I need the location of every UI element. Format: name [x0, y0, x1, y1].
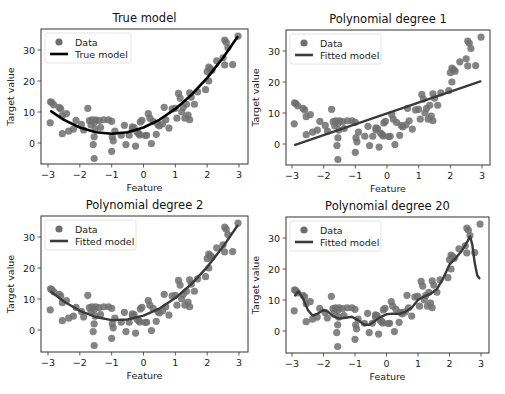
data-point: [177, 94, 184, 101]
data-point: [91, 342, 98, 349]
data-point: [372, 124, 379, 131]
data-point: [448, 78, 455, 85]
data-point: [303, 131, 310, 138]
data-point: [417, 116, 424, 123]
data-point: [328, 106, 335, 113]
x-tick-label: 1: [172, 357, 178, 368]
data-point: [472, 62, 479, 69]
y-tick-label: 30: [268, 233, 280, 244]
y-tick-label: 10: [23, 294, 35, 305]
subplot-title: Polynomial degree 1: [329, 12, 446, 26]
data-point: [132, 330, 139, 337]
y-tick-label: 20: [268, 264, 280, 275]
data-point: [366, 329, 373, 336]
y-tick-label: 0: [274, 139, 280, 150]
legend-data-marker-icon: [300, 226, 307, 233]
data-point: [353, 138, 360, 145]
data-point: [148, 327, 155, 334]
legend-line-label: Fitted model: [320, 237, 379, 248]
x-tick-label: −1: [348, 170, 362, 181]
data-point: [121, 309, 128, 316]
subplot-title: Polynomial degree 2: [86, 198, 203, 212]
data-point: [202, 86, 209, 93]
data-point: [391, 141, 398, 148]
data-point: [351, 306, 358, 313]
figure: True model−3−2−101230102030FeatureTarget…: [0, 0, 505, 394]
legend-data-marker-icon: [55, 225, 62, 232]
data-point: [173, 115, 180, 122]
y-tick-label: 30: [23, 232, 35, 243]
data-point: [97, 124, 104, 131]
x-axis-label: Feature: [370, 371, 406, 382]
data-point: [91, 320, 98, 327]
x-tick-label: −1: [105, 169, 119, 180]
data-point: [291, 120, 298, 127]
data-point: [291, 307, 298, 314]
data-point: [91, 155, 98, 162]
x-tick-label: 1: [415, 358, 421, 369]
data-point: [161, 291, 168, 298]
data-point: [84, 105, 91, 112]
data-point: [355, 129, 362, 136]
data-point: [334, 134, 341, 141]
subplot-title: True model: [112, 11, 177, 25]
data-point: [375, 144, 382, 151]
data-point: [381, 305, 388, 312]
data-point: [90, 141, 97, 148]
data-point: [229, 61, 236, 68]
x-tick-label: −3: [41, 357, 55, 368]
legend-data-marker-icon: [55, 38, 62, 45]
data-point: [161, 104, 168, 111]
data-point: [352, 149, 359, 156]
y-tick-label: 10: [268, 295, 280, 306]
data-point: [186, 116, 193, 123]
data-point: [434, 102, 441, 109]
data-point: [165, 312, 172, 319]
data-point: [132, 143, 139, 150]
data-point: [364, 123, 371, 130]
legend-line-label: True model: [74, 49, 128, 60]
x-tick-label: 1: [416, 170, 422, 181]
data-point: [333, 329, 340, 336]
data-point: [387, 133, 394, 140]
y-tick-label: 0: [29, 138, 35, 149]
y-tick-label: 10: [268, 108, 280, 119]
data-point: [396, 319, 403, 326]
data-point: [70, 312, 77, 319]
legend-data-label: Data: [320, 225, 343, 236]
data-point: [47, 119, 54, 126]
x-tick-label: −2: [316, 358, 330, 369]
y-axis-label: Target value: [250, 68, 261, 128]
data-point: [138, 304, 145, 311]
y-tick-label: 0: [29, 325, 35, 336]
data-point: [165, 125, 172, 132]
data-point: [148, 140, 155, 147]
data-point: [307, 111, 314, 118]
data-point: [415, 106, 422, 113]
data-point: [122, 141, 129, 148]
subplot-3: Polynomial degree 2−3−2−101230102030Feat…: [5, 198, 248, 381]
data-point: [409, 126, 416, 133]
x-tick-label: −2: [73, 357, 87, 368]
x-tick-label: −3: [285, 170, 299, 181]
data-point: [202, 273, 209, 280]
y-tick-label: 0: [274, 326, 280, 337]
data-point: [333, 142, 340, 149]
x-tick-label: 3: [236, 169, 242, 180]
x-tick-label: 3: [479, 170, 485, 181]
data-point: [108, 118, 115, 125]
data-point: [463, 55, 470, 62]
data-point: [63, 110, 70, 117]
data-point: [108, 305, 115, 312]
y-tick-label: 20: [23, 263, 35, 274]
data-point: [173, 302, 180, 309]
legend-data-label: Data: [320, 38, 343, 49]
data-point: [328, 293, 335, 300]
data-point: [153, 318, 160, 325]
data-point: [406, 117, 413, 124]
data-point: [391, 328, 398, 335]
data-point: [375, 331, 382, 338]
data-point: [361, 133, 368, 140]
data-point: [143, 319, 150, 326]
legend-data-label: Data: [75, 224, 98, 235]
